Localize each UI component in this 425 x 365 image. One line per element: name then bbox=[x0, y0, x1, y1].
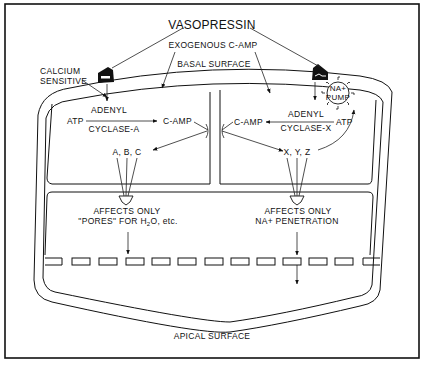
right-enzyme-1: ADENYL bbox=[288, 109, 324, 119]
receptor-left bbox=[98, 67, 114, 83]
left-targets: A, B, C bbox=[112, 147, 141, 157]
left-effect-2: "PORES" FOR H2O, etc. bbox=[78, 216, 177, 227]
basal-surface-label: BASAL SURFACE bbox=[177, 59, 251, 69]
left-camp: C-AMP bbox=[163, 116, 192, 126]
right-atp: ATP bbox=[336, 117, 353, 127]
left-enzyme-2: CYCLASE-A bbox=[89, 124, 140, 134]
vasopressin-title: VASOPRESSIN bbox=[168, 18, 255, 32]
svg-text:PUMP: PUMP bbox=[326, 93, 350, 102]
right-effect-1: AFFECTS ONLY bbox=[264, 206, 331, 216]
right-effect-2: NA+ PENETRATION bbox=[255, 216, 338, 226]
right-camp: C-AMP bbox=[234, 117, 263, 127]
calcium-sensitive-label: CALCIUM bbox=[40, 66, 80, 76]
exogenous-camp-label: EXOGENOUS C-AMP bbox=[168, 40, 257, 50]
junction-row bbox=[45, 258, 380, 265]
na-pump: NA+ PUMP bbox=[322, 77, 354, 109]
right-enzyme-2: CYCLASE-X bbox=[281, 123, 332, 133]
left-enzyme-1: ADENYL bbox=[91, 105, 127, 115]
apical-surface-label: APICAL SURFACE bbox=[174, 331, 251, 341]
left-open-arrow bbox=[119, 196, 133, 205]
vasopressin-diagram: VASOPRESSIN EXOGENOUS C-AMP BASAL SURFAC… bbox=[0, 0, 425, 365]
compartment-left-upper bbox=[47, 92, 210, 184]
calcium-sensitive-label-2: SENSITIVE bbox=[40, 76, 87, 86]
right-targets: X, Y, Z bbox=[284, 147, 311, 157]
receptor-right bbox=[312, 64, 328, 80]
compartment-right-upper bbox=[220, 90, 376, 184]
svg-text:NA+: NA+ bbox=[330, 84, 347, 93]
right-open-arrow bbox=[290, 196, 304, 205]
left-effect-1: AFFECTS ONLY bbox=[93, 206, 160, 216]
left-atp: ATP bbox=[67, 116, 84, 126]
